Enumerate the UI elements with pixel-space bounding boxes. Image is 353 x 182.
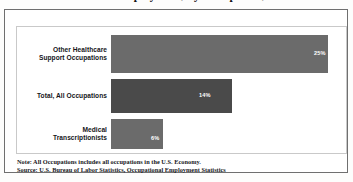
bar-category-label: Total, All Occupations xyxy=(19,92,107,100)
bar-category-label-line1: Medical xyxy=(82,126,107,133)
bar-row: Medical Transcriptionists 6% xyxy=(17,119,348,149)
bar-category-label-line2: Support Occupations xyxy=(39,54,107,61)
bars-area: Other Healthcare Support Occupations 25%… xyxy=(17,27,348,155)
bar-row: Other Healthcare Support Occupations 25% xyxy=(17,35,348,73)
bar-category-label-line1: Other Healthcare xyxy=(53,46,107,53)
bar-rect xyxy=(111,119,163,149)
chart-title: Percent of Employment, by Occupation, 20… xyxy=(0,0,353,3)
bar-chart-figure: Percent of Employment, by Occupation, 20… xyxy=(0,0,353,182)
plot-area-frame: Other Healthcare Support Occupations 25%… xyxy=(16,26,347,154)
bar-rect xyxy=(111,35,328,73)
bar-category-label-line2: Transcriptionists xyxy=(53,134,107,141)
bar-row: Total, All Occupations 14% xyxy=(17,79,348,113)
bar-value-label: 6% xyxy=(151,135,159,141)
chart-outer-frame: Other Healthcare Support Occupations 25%… xyxy=(4,9,348,173)
footnote-source: Source: U.S. Bureau of Labor Statistics,… xyxy=(17,166,337,174)
bar-value-label: 14% xyxy=(199,92,211,98)
bar-rect xyxy=(111,79,232,113)
bar-value-label: 25% xyxy=(314,50,326,56)
bar-category-label: Other Healthcare Support Occupations xyxy=(19,46,107,62)
bar-category-label-line1: Total, All Occupations xyxy=(37,92,107,99)
bar-category-label: Medical Transcriptionists xyxy=(19,126,107,142)
footnote-note: Note: All Occupations includes all occup… xyxy=(17,158,337,166)
chart-footnote: Note: All Occupations includes all occup… xyxy=(17,158,337,175)
